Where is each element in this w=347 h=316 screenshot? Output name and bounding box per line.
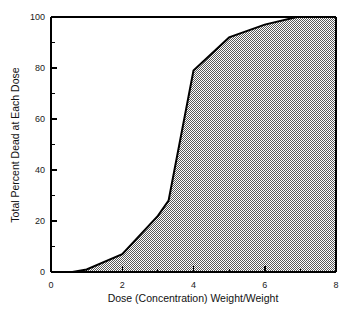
tick-label: 60: [35, 114, 45, 124]
tick-label: 40: [35, 165, 45, 175]
tick-label: 80: [35, 63, 45, 73]
tick-label: 20: [35, 216, 45, 226]
tick-label: 0: [48, 280, 53, 290]
tick-label: 100: [30, 12, 45, 22]
tick-label: 8: [333, 280, 338, 290]
tick-label: 4: [191, 280, 196, 290]
chart-figure: 02468 020406080100 Dose (Concentration) …: [0, 0, 347, 316]
tick-label: 6: [262, 280, 267, 290]
dose-response-chart: 02468 020406080100 Dose (Concentration) …: [0, 0, 347, 316]
x-axis-title: Dose (Concentration) Weight/Weight: [108, 292, 279, 304]
y-axis-title: Total Percent Dead at Each Dose: [9, 67, 21, 222]
tick-label: 0: [40, 267, 45, 277]
tick-label: 2: [120, 280, 125, 290]
y-axis-tick-labels: 020406080100: [30, 12, 45, 277]
x-axis-tick-labels: 02468: [48, 280, 338, 290]
